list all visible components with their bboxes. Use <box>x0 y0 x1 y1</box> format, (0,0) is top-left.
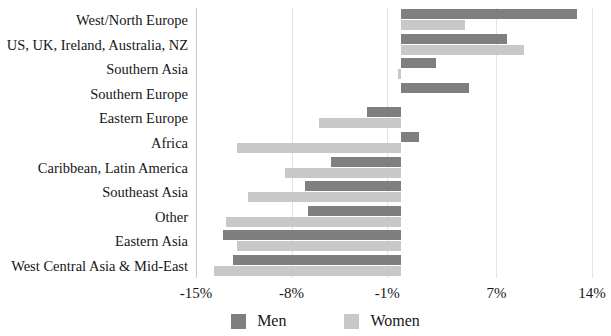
bar-men <box>401 9 577 19</box>
bar-men <box>401 83 469 93</box>
bar-men <box>223 230 401 240</box>
legend-item-women: Women <box>344 312 419 330</box>
bar-women <box>319 118 401 128</box>
category-label: West/North Europe <box>0 12 188 28</box>
bar-women <box>401 20 465 30</box>
bar-men <box>233 255 401 265</box>
bar-men <box>305 181 401 191</box>
gridline-neg15 <box>196 8 197 278</box>
legend-swatch-icon <box>231 314 246 329</box>
category-label-column: West/North EuropeUS, UK, Ireland, Austra… <box>0 8 196 278</box>
bar-men <box>367 107 401 117</box>
category-label: Southern Asia <box>0 61 188 77</box>
category-label: Southern Europe <box>0 86 188 102</box>
category-label: Africa <box>0 135 188 151</box>
x-tick-label: -15% <box>180 283 213 303</box>
bar-women <box>401 45 524 55</box>
category-label: Other <box>0 209 188 225</box>
bar-men <box>401 132 419 142</box>
x-axis-tick-labels: -15%-8%-1%7%14% <box>196 283 592 307</box>
bar-women <box>285 168 401 178</box>
gridline-14 <box>592 8 593 278</box>
bar-men <box>308 206 401 216</box>
category-label: West Central Asia & Mid-East <box>0 258 188 274</box>
bar-men <box>401 58 437 68</box>
bar-women <box>214 266 401 276</box>
legend-swatch-icon <box>344 314 359 329</box>
category-label: US, UK, Ireland, Australia, NZ <box>0 37 188 53</box>
x-tick-label: 14% <box>578 283 606 303</box>
category-label: Eastern Europe <box>0 110 188 126</box>
x-tick-label: -8% <box>279 283 304 303</box>
bar-chart: West/North EuropeUS, UK, Ireland, Austra… <box>0 0 611 336</box>
legend-label: Women <box>370 312 419 330</box>
bar-men <box>331 157 401 167</box>
bar-men <box>401 34 508 44</box>
bar-women <box>237 143 401 153</box>
category-label: Eastern Asia <box>0 233 188 249</box>
x-tick-label: -1% <box>375 283 400 303</box>
plot-area <box>196 8 592 278</box>
legend-label: Men <box>257 312 286 330</box>
bar-women <box>226 217 401 227</box>
bar-women <box>398 69 401 79</box>
x-tick-label: 7% <box>486 283 506 303</box>
bar-women <box>248 192 401 202</box>
legend-item-men: Men <box>231 312 286 330</box>
chart-legend: MenWomen <box>0 308 611 334</box>
category-label: Caribbean, Latin America <box>0 160 188 176</box>
category-label: Southeast Asia <box>0 184 188 200</box>
bar-women <box>237 241 401 251</box>
